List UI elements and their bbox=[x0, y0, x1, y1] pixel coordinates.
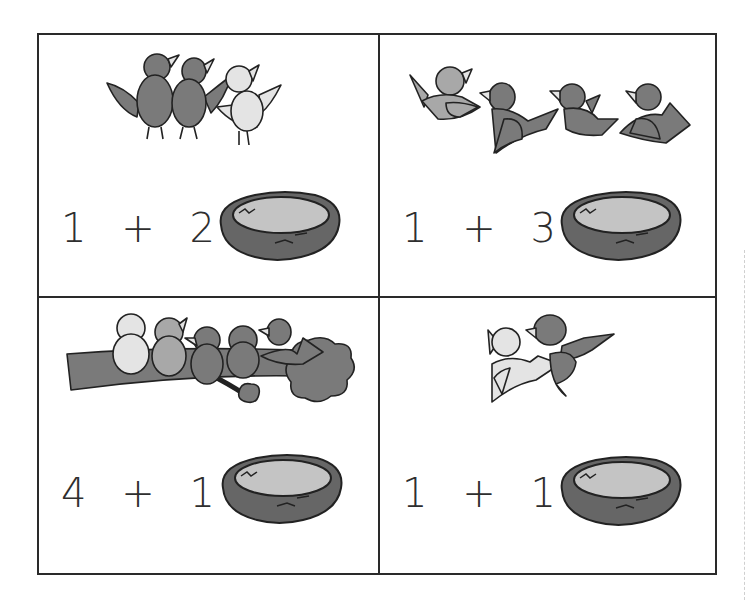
empty-nest-icon[interactable] bbox=[217, 450, 347, 530]
cell-top-left: 1 + 2 = bbox=[39, 35, 378, 296]
bird-icon bbox=[152, 318, 187, 376]
page-edge-marks bbox=[744, 250, 747, 600]
bird-icon bbox=[526, 315, 614, 396]
bird-icon bbox=[410, 67, 480, 119]
bird-icon bbox=[550, 84, 618, 135]
bird-icon bbox=[113, 314, 149, 374]
bird-icon bbox=[480, 83, 558, 153]
bird-icon bbox=[172, 58, 232, 139]
bird-icon bbox=[620, 84, 690, 143]
addend-a: 1 bbox=[402, 470, 433, 516]
plus-sign: + bbox=[121, 470, 161, 516]
empty-nest-icon[interactable] bbox=[556, 452, 686, 532]
addend-a: 1 bbox=[402, 205, 433, 251]
cell-bottom-left: 4 + 1 = bbox=[39, 298, 378, 559]
bird-icon bbox=[217, 65, 281, 145]
worksheet-grid: 1 + 2 = bbox=[37, 33, 717, 575]
plus-sign: + bbox=[462, 470, 502, 516]
bird-icon bbox=[107, 54, 179, 139]
cell-bottom-right: 1 + 1 = bbox=[380, 298, 719, 559]
bird-icon bbox=[227, 326, 259, 378]
plus-sign: + bbox=[121, 205, 161, 251]
plus-sign: + bbox=[462, 205, 502, 251]
addend-a: 1 bbox=[61, 205, 92, 251]
addend-a: 4 bbox=[61, 470, 92, 516]
cell-top-right: 1 + 3 = bbox=[380, 35, 719, 296]
empty-nest-icon[interactable] bbox=[215, 187, 345, 267]
empty-nest-icon[interactable] bbox=[556, 187, 686, 267]
